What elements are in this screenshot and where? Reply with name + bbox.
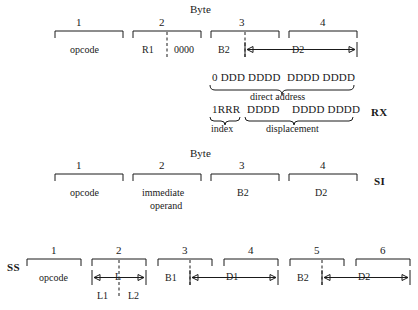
instruction-format-diagram: Byte 1 2 3 4 opcode R1 0000 B2 D2 0 DDD … [0,0,418,310]
field-d1-ss: D1 [226,272,238,282]
field-l-ss: L [115,272,121,282]
ss-row-lines [0,0,418,310]
field-l1-ss: L1 [97,291,108,301]
field-opcode-ss: opcode [39,273,68,283]
field-b1-ss: B1 [165,273,177,283]
field-b2-ss: B2 [297,273,309,283]
field-d2-ss: D2 [358,272,370,282]
field-l2-ss: L2 [128,291,139,301]
